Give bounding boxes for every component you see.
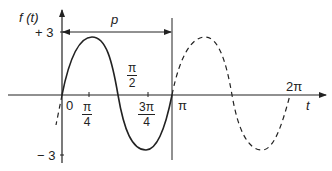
x-tick-0: 0	[66, 99, 73, 112]
x-axis-label: t	[306, 99, 310, 112]
dashed-sine-curve-left	[56, 95, 62, 125]
x-tick-pi-over-4: π 4	[82, 101, 92, 128]
x-tick-3pi-over-4: 3π 4	[138, 101, 155, 128]
period-label: p	[111, 13, 118, 26]
y-tick-minus-3: − 3	[37, 149, 55, 162]
x-tick-2pi: 2π	[286, 80, 302, 93]
solid-sine-curve	[62, 37, 172, 150]
dashed-sine-curve	[172, 37, 290, 150]
x-tick-pi-over-2: π 2	[127, 62, 137, 89]
y-tick-plus-3: + 3	[35, 26, 53, 39]
sine-wave-diagram: f (t) + 3 − 3 p 0 π 4 π 2 3π 4 π 2π t	[0, 0, 332, 171]
y-axis-label: f (t)	[19, 11, 39, 24]
x-tick-pi: π	[178, 99, 187, 112]
